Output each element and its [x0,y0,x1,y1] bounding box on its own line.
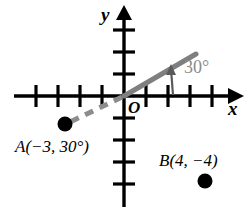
point-a-label: A(−3, 30°) [15,138,89,155]
point-b-label: B(4, −4) [159,152,218,169]
point-b-dot [198,174,213,189]
point-a-dot [58,117,73,132]
coordinate-plane-svg [0,0,252,215]
angle-indicator-arrow [171,72,173,95]
y-axis-label: y [101,5,109,24]
angle-label-30-degrees: 30° [184,58,209,76]
y-axis-arrowhead [116,5,132,20]
polar-coordinate-figure: y x O 30° A(−3, 30°) B(4, −4) [0,0,252,215]
dashed-ray-to-point-a [66,97,122,124]
x-axis-label: x [228,99,238,118]
origin-label: O [128,99,140,116]
